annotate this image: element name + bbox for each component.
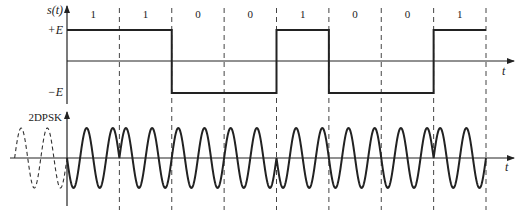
plus-e-label: +E bbox=[48, 23, 64, 37]
bit-label: 1 bbox=[457, 8, 463, 20]
bit-boundary-lines bbox=[119, 8, 486, 210]
dpsk-figure: s(t) +E −E t 11001001 2DPSK t bbox=[0, 0, 519, 216]
bottom-y-label: 2DPSK bbox=[28, 111, 62, 123]
minus-e-label: −E bbox=[48, 85, 64, 99]
bottom-t-label: t bbox=[505, 160, 509, 174]
top-y-label: s(t) bbox=[47, 3, 63, 17]
bit-label: 1 bbox=[90, 8, 96, 20]
bit-label: 1 bbox=[300, 8, 306, 20]
bit-label: 0 bbox=[248, 8, 254, 20]
bit-label: 1 bbox=[143, 8, 149, 20]
bit-label: 0 bbox=[195, 8, 201, 20]
bit-label: 0 bbox=[405, 8, 411, 20]
top-t-label: t bbox=[502, 64, 506, 78]
bit-label: 0 bbox=[352, 8, 358, 20]
